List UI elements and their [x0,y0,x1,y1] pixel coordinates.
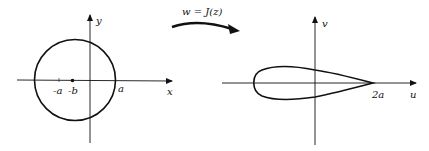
x-axis [17,80,172,81]
u-axis-label: u [410,89,416,100]
tick-label-neg-b: -b [68,85,78,96]
tick-label-neg-a: -a [53,85,62,96]
mapping: w = J(z) [172,6,240,34]
z-plane: y x -a -b a [17,15,173,143]
tick-label-a: a [118,83,124,94]
x-axis-label: x [167,86,173,97]
mapping-label: w = J(z) [182,6,222,17]
y-axis-label: y [95,15,102,26]
w-plane: v u 2a [222,17,416,145]
center-point [71,79,75,83]
mapping-arrow [172,23,232,29]
arrow-head-icon [228,24,240,34]
diagram-canvas: y x -a -b a w = J(z) v u 2a [0,0,429,151]
v-axis-label: v [322,18,328,29]
tick-label-2a: 2a [371,89,384,100]
